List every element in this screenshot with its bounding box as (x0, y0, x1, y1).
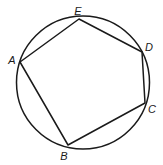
inscribed-pentagon-diagram: A B C D E (0, 0, 163, 165)
vertex-label-d: D (145, 42, 153, 53)
diagram-svg (0, 0, 163, 165)
vertex-label-e: E (74, 6, 81, 17)
vertex-label-c: C (148, 104, 156, 115)
vertex-label-b: B (60, 151, 67, 162)
pentagon-abcde (20, 19, 145, 145)
vertex-label-a: A (8, 55, 15, 66)
circumscribed-circle (17, 16, 150, 149)
